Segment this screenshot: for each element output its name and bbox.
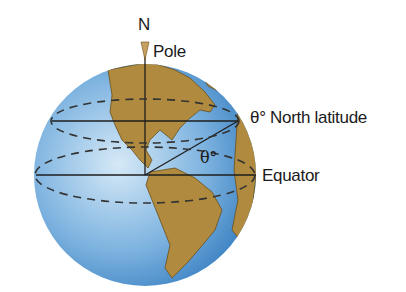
north-label: N [138,15,150,35]
globe-diagram [0,0,406,292]
pole-pointer-icon [141,42,149,60]
angle-label: θ° [200,148,217,167]
equator-label: Equator [262,166,319,186]
latitude-label: θ° North latitude [250,108,367,128]
pole-label: Pole [153,42,186,62]
